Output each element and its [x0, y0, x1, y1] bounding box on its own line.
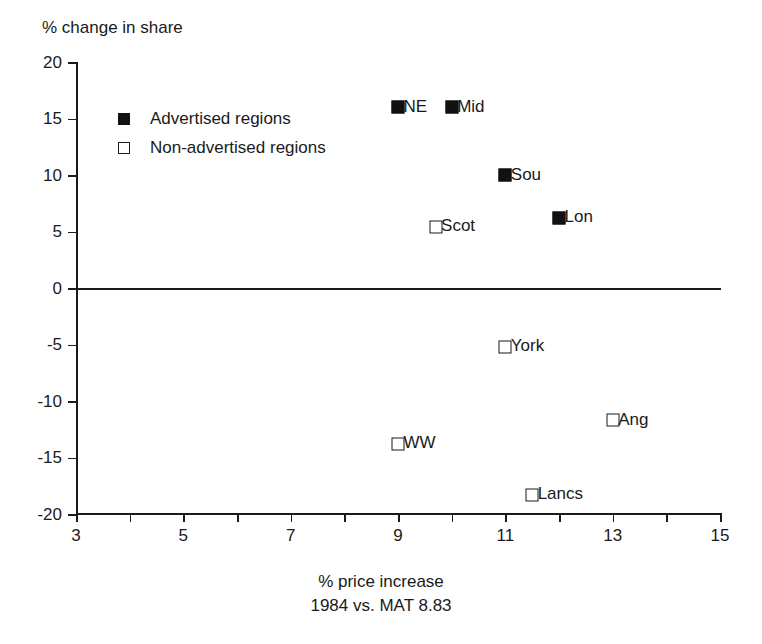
x-tick-mark [237, 513, 239, 522]
filled-square-marker: Mid [445, 101, 458, 114]
filled-square-marker: Lon [553, 211, 566, 224]
y-tick-label: -20 [37, 505, 62, 525]
legend-item-advertised: Advertised regions [118, 104, 326, 133]
y-tick-label: -5 [47, 335, 62, 355]
x-tick-mark [291, 513, 293, 522]
open-square-icon [118, 142, 130, 154]
x-tick-mark [344, 513, 346, 522]
y-tick-mark: -15 [68, 458, 76, 460]
y-tick-label: 20 [43, 53, 62, 73]
open-square-marker: York [499, 340, 512, 353]
x-tick-label: 13 [603, 526, 622, 546]
open-square-marker: Ang [606, 414, 619, 427]
scatter-chart: % change in share 20151050-5-10-15-20 35… [0, 0, 762, 644]
x-tick-mark [666, 513, 668, 522]
data-point-label: Mid [457, 97, 484, 117]
data-point-label: Lancs [538, 484, 583, 504]
x-axis-title-main: % price increase [0, 570, 762, 594]
filled-square-marker: NE [392, 101, 405, 114]
data-point-label: Sou [511, 165, 541, 185]
y-axis-title: % change in share [42, 18, 183, 38]
y-tick-label: -15 [37, 448, 62, 468]
x-tick-mark [183, 513, 185, 522]
y-tick-label: -10 [37, 392, 62, 412]
y-tick-label: 10 [43, 166, 62, 186]
legend-item-non-advertised: Non-advertised regions [118, 133, 326, 162]
y-tick-mark: 0 [68, 288, 76, 290]
y-tick-mark: -20 [68, 514, 76, 516]
x-tick-mark [505, 513, 507, 522]
legend-label-advertised: Advertised regions [150, 109, 291, 129]
y-tick-label: 5 [53, 222, 62, 242]
y-tick-mark: 15 [68, 119, 76, 121]
data-point-label: NE [404, 97, 428, 117]
x-tick-label: 15 [711, 526, 730, 546]
data-point-label: Lon [565, 208, 593, 228]
data-point-label: Scot [441, 217, 475, 237]
y-tick-mark: -10 [68, 401, 76, 403]
x-tick-mark [130, 513, 132, 522]
x-tick-mark [613, 513, 615, 522]
x-tick-label: 5 [179, 526, 188, 546]
x-tick-mark [720, 513, 722, 522]
open-square-marker: Scot [429, 220, 442, 233]
y-tick-mark: 5 [68, 232, 76, 234]
filled-square-icon [118, 113, 130, 125]
y-tick-mark: 20 [68, 62, 76, 64]
x-tick-label: 7 [286, 526, 295, 546]
x-tick-mark [452, 513, 454, 522]
y-tick-label: 0 [53, 279, 62, 299]
x-tick-label: 9 [393, 526, 402, 546]
x-axis-title-sub: 1984 vs. MAT 8.83 [0, 594, 762, 618]
legend-label-non-advertised: Non-advertised regions [150, 138, 326, 158]
data-point-label: York [511, 336, 544, 356]
data-point-label: Ang [618, 410, 648, 430]
y-tick-mark: -5 [68, 345, 76, 347]
filled-square-marker: Sou [499, 169, 512, 182]
x-tick-mark [398, 513, 400, 522]
x-tick-mark [559, 513, 561, 522]
open-square-marker: Lancs [526, 488, 539, 501]
x-tick-label: 11 [497, 526, 515, 546]
x-tick-mark [76, 513, 78, 522]
y-tick-label: 15 [43, 109, 62, 129]
chart-legend: Advertised regions Non-advertised region… [118, 104, 326, 162]
x-tick-label: 3 [71, 526, 80, 546]
y-tick-mark: 10 [68, 175, 76, 177]
data-point-label: WW [404, 434, 436, 454]
open-square-marker: WW [392, 437, 405, 450]
x-axis-title: % price increase 1984 vs. MAT 8.83 [0, 570, 762, 618]
